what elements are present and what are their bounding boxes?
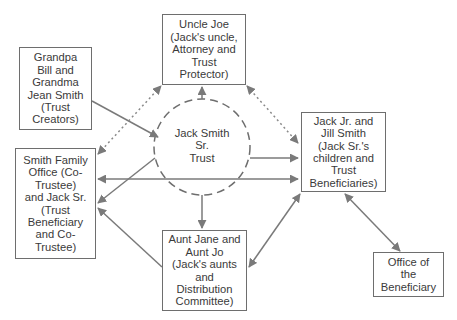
node-children: Jack Jr. and Jill Smith (Jack Sr.'s chil…: [301, 112, 386, 192]
edge-grandparents-trust: [92, 101, 158, 137]
node-line: Uncle Joe: [170, 18, 237, 30]
node-line: Beneficiary: [23, 216, 88, 228]
node-line: Trust: [310, 164, 378, 176]
edge-uncle-joe-children: [247, 86, 298, 143]
node-line: Office (Co-: [23, 166, 88, 178]
node-line: and Co-: [23, 228, 88, 240]
node-line: children and: [310, 152, 378, 164]
node-line: Trustee): [23, 179, 88, 191]
node-line: Bill and: [28, 64, 84, 76]
node-line: Jean Smith: [28, 89, 84, 101]
edge-children-beneficiary-office: [345, 194, 400, 251]
node-family-office: Smith Family Office (Co- Trustee) and Ja…: [15, 148, 96, 259]
node-line: Trust: [170, 56, 237, 68]
node-line: Jill Smith: [310, 127, 378, 139]
node-aunts: Aunt Jane and Aunt Jo (Jack's aunts and …: [162, 230, 247, 311]
trust-label-line: Trust: [162, 152, 242, 164]
node-line: Distribution: [168, 283, 240, 295]
node-line: Grandpa: [28, 51, 84, 63]
node-beneficiary-office: Office of the Beneficiary: [373, 252, 444, 297]
node-line: Committee): [168, 295, 240, 307]
edge-family-office-uncle-joe: [98, 86, 161, 154]
node-line: Creators): [28, 113, 84, 125]
node-line: and: [168, 271, 240, 283]
node-line: Grandma: [28, 76, 84, 88]
node-line: Jack Jr. and: [310, 115, 378, 127]
node-line: Protector): [170, 68, 237, 80]
node-line: (Jack's aunts: [168, 258, 240, 270]
node-line: Aunt Jane and: [168, 233, 240, 245]
node-line: Beneficiary: [381, 281, 436, 293]
edge-trust-family-office: [98, 158, 155, 203]
node-uncle-joe: Uncle Joe (Jack's uncle, Attorney and Tr…: [162, 14, 246, 85]
node-line: (Jack Sr.'s: [310, 140, 378, 152]
node-line: and Jack Sr.: [23, 191, 88, 203]
edge-aunts-children: [249, 194, 300, 267]
node-line: Attorney and: [170, 43, 237, 55]
node-line: (Trust: [23, 204, 88, 216]
node-line: (Trust: [28, 101, 84, 113]
node-line: Trustee): [23, 241, 88, 253]
node-line: Beneficiaries): [310, 177, 378, 189]
trust-label: Jack Smith Sr. Trust: [162, 127, 242, 164]
node-line: the: [381, 268, 436, 280]
node-line: (Jack's uncle,: [170, 31, 237, 43]
edge-aunts-family-office: [98, 208, 162, 267]
node-line: Office of: [381, 256, 436, 268]
trust-label-line: Sr.: [162, 139, 242, 151]
node-grandparents: Grandpa Bill and Grandma Jean Smith (Tru…: [19, 47, 92, 130]
node-line: Smith Family: [23, 154, 88, 166]
node-line: Aunt Jo: [168, 246, 240, 258]
trust-label-line: Jack Smith: [162, 127, 242, 139]
